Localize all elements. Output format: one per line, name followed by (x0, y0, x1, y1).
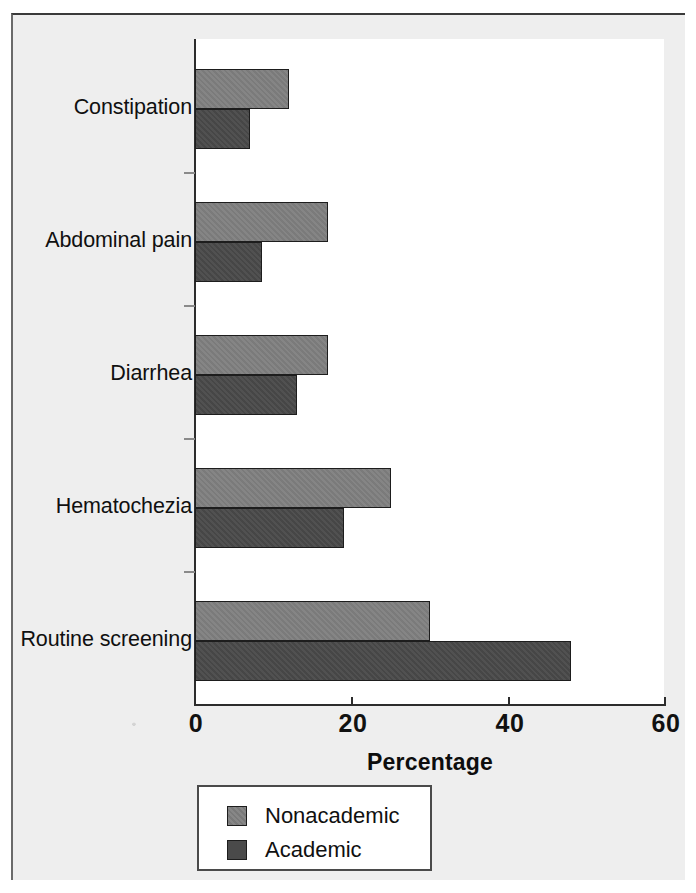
category-label-abdominal-pain: Abdominal pain (45, 228, 192, 253)
bar-routine-screening-nonacademic (195, 601, 430, 641)
legend-swatch-icon-nonacademic (227, 806, 247, 826)
chart-legend: Nonacademic Academic (197, 785, 432, 871)
bar-hematochezia-nonacademic (195, 468, 391, 508)
y-axis-tick (184, 438, 195, 440)
x-axis-tick-20 (351, 697, 353, 706)
x-axis-tick-label-60: 60 (652, 709, 681, 738)
y-axis-tick (184, 571, 195, 573)
x-axis-tick-label-20: 20 (339, 709, 368, 738)
x-axis-line (194, 704, 665, 706)
category-label-hematochezia: Hematochezia (56, 494, 192, 519)
y-axis-tick (184, 172, 195, 174)
legend-item-nonacademic: Nonacademic (227, 803, 400, 829)
category-label-routine-screening: Routine screening (20, 627, 192, 652)
bar-abdominal-pain-nonacademic (195, 202, 328, 242)
bar-constipation-academic (195, 109, 250, 149)
bar-abdominal-pain-academic (195, 242, 262, 282)
category-label-diarrhea: Diarrhea (110, 361, 192, 386)
x-axis-tick-label-40: 40 (496, 709, 525, 738)
bar-diarrhea-academic (195, 375, 297, 415)
category-label-constipation: Constipation (74, 95, 192, 120)
bar-hematochezia-academic (195, 508, 344, 548)
x-axis-tick-60 (664, 697, 666, 706)
x-axis-tick-40 (508, 697, 510, 706)
figure-root: 0 20 40 60 Constipation Abdominal pain D… (0, 0, 696, 893)
bar-routine-screening-academic (195, 641, 571, 681)
legend-label-nonacademic: Nonacademic (265, 803, 400, 829)
bar-constipation-nonacademic (195, 69, 289, 109)
x-axis-tick-label-0: 0 (189, 709, 203, 738)
x-axis-title: Percentage (196, 749, 664, 776)
x-axis-tick-0 (194, 697, 196, 706)
legend-item-academic: Academic (227, 837, 362, 863)
legend-label-academic: Academic (265, 837, 362, 863)
bar-diarrhea-nonacademic (195, 335, 328, 375)
legend-swatch-icon-academic (227, 840, 247, 860)
y-axis-tick (184, 305, 195, 307)
